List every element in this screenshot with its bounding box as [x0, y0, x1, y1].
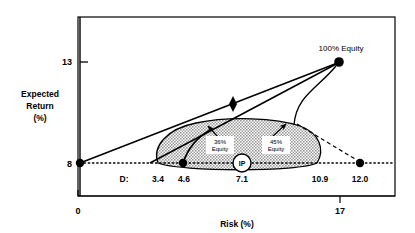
- chart-background: [0, 0, 415, 233]
- ip-marker-label: IP: [239, 160, 246, 167]
- y-tick-label-13: 13: [62, 57, 72, 67]
- x-tick-label-0: 0: [75, 206, 80, 216]
- y-axis-label-line1: Expected: [21, 89, 59, 99]
- equity-36-label-line2: Equity: [212, 146, 229, 152]
- d-axis-title: D:: [120, 174, 129, 184]
- d-tick-3-4: 3.4: [152, 174, 164, 184]
- equity-36-label-line1: 36%: [214, 139, 227, 145]
- equity-100-label: 100% Equity: [319, 44, 364, 53]
- equity-45-label-line1: 45%: [270, 139, 283, 145]
- point-4-6: [179, 159, 187, 167]
- y-tick-label-8: 8: [67, 159, 72, 169]
- equity-100-point: [334, 57, 344, 67]
- efficient-frontier-chart: 13 8 Expected Return (%) 0 17 Risk (%) 3…: [0, 0, 415, 233]
- d-tick-12-0: 12.0: [352, 174, 369, 184]
- risk-free-point: [76, 159, 84, 167]
- chart-figure: 13 8 Expected Return (%) 0 17 Risk (%) 3…: [0, 0, 415, 233]
- x-axis-label: Risk (%): [220, 219, 254, 229]
- equity-45-label-line2: Equity: [268, 146, 285, 152]
- d-tick-7-1: 7.1: [236, 174, 248, 184]
- y-axis-label-line2: Return: [26, 101, 53, 111]
- d-tick-10-9: 10.9: [312, 174, 329, 184]
- y-axis-label-line3: (%): [33, 113, 46, 123]
- x-tick-label-17: 17: [335, 206, 345, 216]
- d-tick-4-6: 4.6: [178, 174, 190, 184]
- point-12-0: [356, 159, 364, 167]
